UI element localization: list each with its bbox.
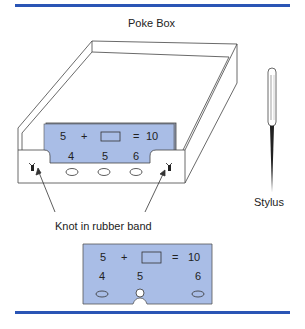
detail-card-choice-1: 4 bbox=[99, 270, 105, 282]
detail-hole-1 bbox=[96, 291, 108, 297]
box-card-choice-3: 6 bbox=[133, 150, 139, 162]
box-card-left: 5 bbox=[60, 130, 66, 142]
box-card-result: 10 bbox=[146, 130, 158, 142]
poke-hole-2 bbox=[98, 169, 110, 176]
stylus-label: Stylus bbox=[254, 196, 284, 208]
stylus-icon bbox=[268, 68, 276, 193]
detail-card-choice-3: 6 bbox=[195, 270, 201, 282]
detail-card-left: 5 bbox=[100, 251, 106, 263]
poke-hole-1 bbox=[66, 169, 78, 176]
bottom-rule bbox=[15, 311, 290, 314]
detail-card-result: 10 bbox=[188, 251, 200, 263]
detail-card-choice-2: 5 bbox=[137, 270, 143, 282]
poke-box-illustration bbox=[0, 0, 305, 329]
knot-label: Knot in rubber band bbox=[55, 220, 152, 232]
box-card-op: + bbox=[81, 130, 87, 142]
detail-card-eq: = bbox=[172, 251, 178, 263]
detail-slot-hole bbox=[136, 289, 144, 297]
box-card-choice-1: 4 bbox=[68, 150, 74, 162]
detail-card-op: + bbox=[121, 251, 127, 263]
box-card-eq: = bbox=[133, 130, 139, 142]
poke-hole-3 bbox=[130, 169, 142, 176]
detail-hole-3 bbox=[192, 291, 204, 297]
box-card-choice-2: 5 bbox=[102, 150, 108, 162]
